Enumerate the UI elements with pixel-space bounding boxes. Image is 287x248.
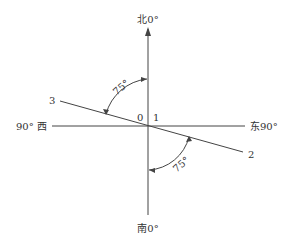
point-1-label: 1 xyxy=(153,112,159,123)
point-0-label: 0 xyxy=(137,112,143,123)
west-label: 90° 西 xyxy=(16,121,47,132)
north-arrow-icon xyxy=(145,27,151,36)
north-label: 北0° xyxy=(137,14,158,25)
point-3-label: 3 xyxy=(49,95,55,106)
point-2-label: 2 xyxy=(248,149,254,160)
east-label: 东90° xyxy=(250,120,278,132)
compass-bearing-diagram: 北0° 南0° 90° 西 东90° 3 2 0 1 75° 75° xyxy=(0,0,287,248)
lower-arc-arrow-icon xyxy=(149,168,155,173)
upper-angle-label: 75° xyxy=(111,77,132,97)
lower-angle-label: 75° xyxy=(171,154,192,174)
south-label: 南0° xyxy=(137,222,158,234)
lower-arc-arrow-icon-2 xyxy=(186,136,192,142)
